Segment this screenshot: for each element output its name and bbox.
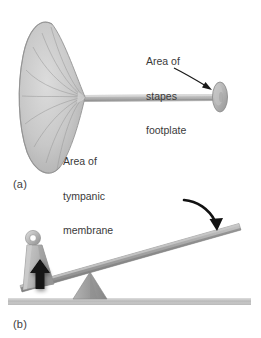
panel-b-illustration [8,200,251,305]
stapes-footplate [213,82,228,112]
callout-tympanic-membrane: Area of tympanic membrane [63,133,113,260]
figure-container: Area of stapes footplate Area of tympani… [0,0,261,338]
ground-surface [8,298,251,305]
callout-stapes-footplate: Area of stapes footplate [146,33,186,160]
panel-label-b: (b) [13,318,27,330]
figure-illustration [0,0,261,338]
panel-a-illustration [19,22,227,173]
arrow-down-force [184,200,223,231]
callout-stapes-line-3: footplate [146,125,186,137]
callout-tympanic-line-1: Area of [63,156,113,168]
callout-tympanic-line-2: tympanic [63,191,113,203]
callout-stapes-line-2: stapes [146,91,186,103]
weight-ring [25,230,40,245]
callout-tympanic-line-3: membrane [63,225,113,237]
callout-stapes-line-1: Area of [146,56,186,68]
panel-label-a: (a) [13,178,27,190]
